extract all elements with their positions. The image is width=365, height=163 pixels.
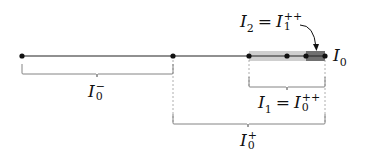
point [303,53,308,58]
arrowhead-icon [313,44,319,51]
point [170,53,175,58]
label-I0-plus: I+0 [240,131,257,152]
brace-I1 [249,77,325,90]
point [284,53,289,58]
point [246,53,251,58]
brace-I0-plus [173,114,325,127]
label-I1-equals-I0-plusplus: I1=I++0 [258,93,320,114]
brace-I0-minus [22,64,173,77]
diagram-canvas [0,0,365,163]
label-I0: I0 [333,47,347,64]
label-I0-minus: I−0 [88,82,105,103]
arrow-I2-to-band [300,25,316,47]
point [322,53,327,58]
label-I2-equals-I1-plusplus: I2=I++1 [240,12,302,33]
point [19,53,24,58]
